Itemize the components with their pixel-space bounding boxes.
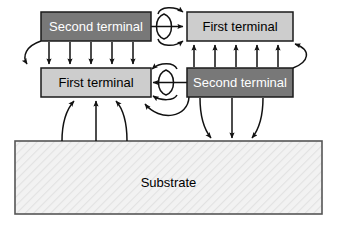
box-mid-second-terminal[interactable]: Second terminal — [187, 68, 293, 97]
arrows-top-to-mid-left — [25, 41, 133, 64]
substrate-block: Substrate — [15, 141, 322, 214]
arrows-substrate-to-mid-left — [62, 101, 127, 141]
arrow-substrate-up-3 — [116, 101, 127, 141]
box-top-second-terminal-label: Second terminal — [49, 19, 143, 34]
substrate-label: Substrate — [141, 175, 197, 190]
arrows-mid-right-to-substrate — [200, 98, 263, 138]
arrow-curved-right-up — [293, 44, 306, 68]
arrow-mid-gap-upper-loop — [152, 64, 177, 69]
arrow-mid-gap-lower-loop — [153, 95, 177, 100]
box-top-second-terminal[interactable]: Second terminal — [41, 12, 151, 41]
box-mid-first-terminal[interactable]: First terminal — [41, 68, 151, 97]
box-mid-second-terminal-label: Second terminal — [193, 75, 287, 90]
arrows-mid-to-top-right — [194, 44, 306, 68]
diagram-canvas: Substrate — [0, 0, 337, 228]
arrow-curved-left-down — [25, 41, 41, 64]
top-row-gap-connector — [151, 8, 183, 46]
arrow-substrate-up-1 — [62, 101, 74, 141]
diagram-svg: Substrate — [0, 0, 337, 228]
arrow-substrate-down-3 — [252, 98, 263, 138]
box-top-first-terminal-label: First terminal — [202, 19, 277, 34]
arrow-substrate-down-1 — [200, 98, 211, 138]
arrow-top-gap-upper-loop — [158, 8, 183, 14]
box-top-first-terminal[interactable]: First terminal — [187, 12, 293, 41]
arrow-top-gap-lower-loop — [158, 39, 183, 45]
box-mid-first-terminal-label: First terminal — [58, 75, 133, 90]
